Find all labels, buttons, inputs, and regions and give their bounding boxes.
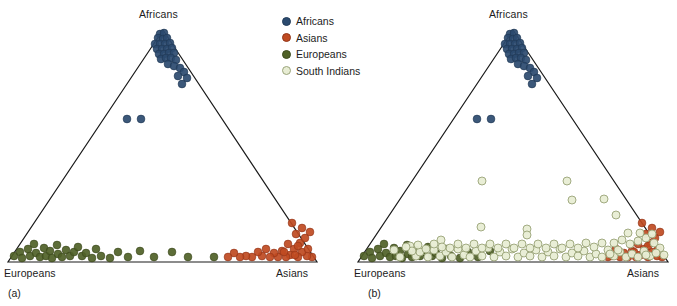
panel-b-vertex-label-asians: Asians (627, 267, 659, 279)
data-point (550, 240, 558, 248)
data-point (478, 244, 486, 252)
data-point (446, 244, 454, 252)
data-point (414, 241, 422, 249)
data-point (486, 240, 494, 248)
data-point (510, 244, 518, 252)
data-point (422, 245, 430, 253)
data-point (652, 249, 660, 257)
panel-b-triangle (358, 30, 668, 262)
data-point (478, 252, 486, 260)
series-asians (224, 219, 316, 261)
data-point (524, 72, 532, 80)
panel-b-vertex-label-africans: Africans (489, 8, 528, 20)
ternary-plot-figure: Africans Europeans Asians (a) Africans E… (0, 0, 677, 306)
data-point (396, 253, 404, 261)
data-point (368, 254, 376, 262)
series-africans (123, 29, 191, 123)
panel-a-vertex-label-asians: Asians (276, 267, 308, 279)
series-europeans (10, 240, 218, 262)
data-point (470, 240, 478, 248)
legend-item-africans: Africans (282, 14, 360, 28)
data-point (97, 252, 105, 260)
data-point (174, 72, 182, 80)
data-point (574, 244, 582, 252)
data-point (291, 251, 299, 259)
data-point (262, 245, 270, 253)
legend-item-asians: Asians (282, 31, 360, 45)
data-point (298, 224, 306, 232)
data-point (634, 253, 642, 261)
panel-a-tag: (a) (8, 287, 21, 299)
data-point (224, 253, 232, 261)
legend-swatch-asians-icon (282, 33, 291, 42)
data-point (92, 245, 100, 253)
data-point (424, 253, 432, 261)
data-point (518, 240, 526, 248)
data-point (210, 253, 218, 261)
data-point (563, 177, 571, 185)
data-point (438, 243, 446, 251)
data-point (477, 223, 485, 231)
data-point (528, 80, 536, 88)
data-point (624, 229, 632, 237)
data-point (634, 237, 642, 245)
data-point (600, 195, 608, 203)
data-point (494, 244, 502, 252)
data-point (526, 252, 534, 260)
legend: Africans Asians Europeans South Indians (282, 14, 360, 78)
data-point (30, 240, 38, 248)
data-point (284, 240, 292, 248)
panel-b-vertex-label-europeans: Europeans (354, 267, 406, 279)
data-point (466, 253, 474, 261)
data-point (542, 244, 550, 252)
data-point (390, 246, 398, 254)
data-point (502, 252, 510, 260)
data-point (74, 243, 82, 251)
data-point (473, 115, 481, 123)
legend-swatch-africans-icon (282, 17, 291, 26)
data-point (523, 231, 531, 239)
panel-b-tag: (b) (368, 287, 381, 299)
data-point (88, 254, 96, 262)
data-point (612, 211, 620, 219)
data-point (526, 244, 534, 252)
data-point (380, 240, 388, 248)
series-south-indians (390, 177, 668, 261)
data-point (46, 247, 54, 255)
data-point (558, 244, 566, 252)
data-point (462, 244, 470, 252)
data-point (487, 115, 495, 123)
data-point (448, 253, 456, 261)
panel-a-vertex-label-africans: Africans (139, 8, 178, 20)
data-point (660, 251, 668, 259)
data-point (137, 115, 145, 123)
data-point (106, 254, 114, 262)
series-africans (473, 29, 541, 123)
data-point (114, 248, 122, 256)
data-point (123, 115, 131, 123)
data-point (280, 248, 288, 256)
data-point (292, 230, 300, 238)
data-point (614, 246, 622, 254)
data-point (618, 236, 626, 244)
data-point (648, 230, 656, 238)
data-point (550, 252, 558, 260)
panel-b-points (360, 29, 668, 262)
data-point (502, 240, 510, 248)
data-point (304, 245, 312, 253)
data-point (294, 242, 302, 250)
data-point (534, 240, 542, 248)
data-point (430, 240, 438, 248)
legend-swatch-south-indians-icon (282, 66, 291, 75)
data-point (306, 228, 314, 236)
data-point (58, 253, 66, 261)
data-point (150, 253, 158, 261)
data-point (178, 80, 186, 88)
data-point (598, 253, 606, 261)
data-point (638, 219, 646, 227)
data-point (568, 196, 576, 204)
data-point (168, 248, 176, 256)
legend-swatch-europeans-icon (282, 50, 291, 59)
data-point (454, 240, 462, 248)
data-point (288, 219, 296, 227)
